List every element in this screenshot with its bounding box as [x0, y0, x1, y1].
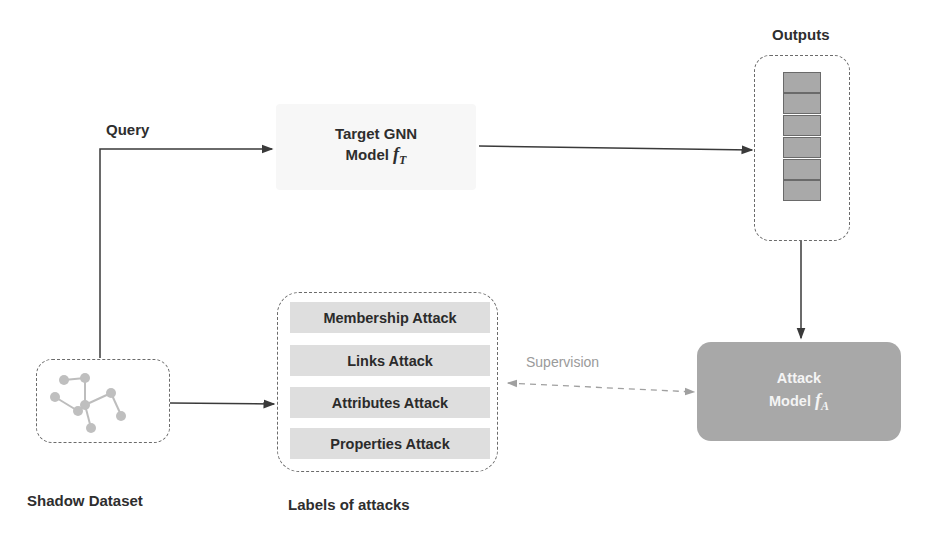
- shadow-to-labels-arrow: [170, 403, 274, 404]
- outputs-label: Outputs: [772, 26, 830, 43]
- shadow-dataset-box: [36, 359, 170, 443]
- attack-model-subtitle: Model fA: [769, 389, 829, 417]
- attack-item-links: Links Attack: [290, 345, 490, 376]
- target-to-outputs-arrow: [479, 146, 752, 150]
- attack-model-title: Attack: [777, 367, 821, 389]
- output-cell: [783, 115, 821, 136]
- output-cell: [783, 180, 821, 201]
- output-cell: [783, 93, 821, 114]
- shadow-dataset-label: Shadow Dataset: [27, 492, 143, 509]
- output-cell: [783, 72, 821, 93]
- supervision-arrow: [508, 383, 694, 392]
- labels-of-attacks-label: Labels of attacks: [288, 496, 410, 513]
- attack-item-membership: Membership Attack: [290, 302, 490, 333]
- attack-item-attributes: Attributes Attack: [290, 387, 490, 418]
- output-cell: [783, 159, 821, 180]
- query-arrow: [100, 149, 272, 358]
- query-label: Query: [106, 121, 149, 138]
- graph-icon: [36, 359, 170, 443]
- supervision-label: Supervision: [526, 354, 599, 370]
- target-model-subtitle: Model fT: [346, 144, 407, 171]
- output-cell: [783, 137, 821, 158]
- attack-model: Attack Model fA: [697, 342, 901, 441]
- target-model-title: Target GNN: [335, 123, 417, 144]
- target-gnn-model: Target GNN Model fT: [276, 104, 476, 190]
- attack-item-properties: Properties Attack: [290, 428, 490, 459]
